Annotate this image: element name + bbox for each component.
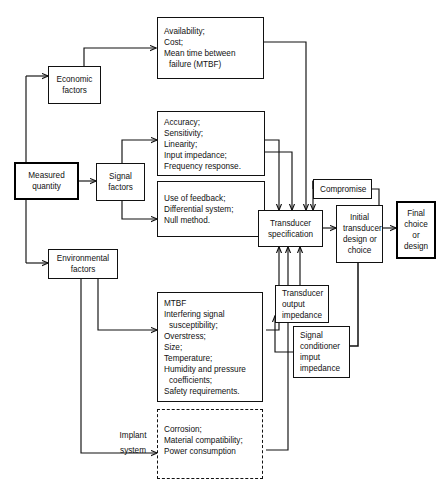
wire-signal-list-a-to-spec [265, 140, 279, 210]
node-label: Transducer [265, 218, 316, 229]
node-label: Transducer [282, 288, 322, 299]
node-initial-transducer-design[interactable]: Initial transducer design or choice [336, 205, 383, 263]
list-line: Temperature; [164, 353, 256, 364]
node-label: impedance [300, 363, 343, 374]
node-compromise[interactable]: Compromise [313, 179, 372, 199]
list-line: Cost; [164, 37, 257, 48]
node-final-choice-or-design[interactable]: Final choice or design [396, 201, 436, 259]
list-line: Interfering signal [164, 309, 256, 320]
node-label: quantity [22, 181, 71, 192]
wire-implant-list-to-spec [266, 247, 288, 450]
list-line: Size; [164, 342, 256, 353]
node-label: Economic [55, 74, 94, 85]
list-line: Use of feedback; [164, 193, 258, 204]
list-line: MTBF [164, 298, 256, 309]
list-line: Accuracy; [164, 116, 258, 127]
node-signal-conditioner-input-impedance[interactable]: Signal conditioner imput impedance [293, 326, 350, 378]
node-economic-criteria-list[interactable]: Availability; Cost; Mean time between fa… [157, 17, 264, 79]
node-label: Signal [300, 330, 343, 341]
node-signal-criteria-list[interactable]: Accuracy; Sensitivity; Linearity; Input … [157, 111, 265, 176]
wire-economic-list-to-spec [264, 42, 306, 210]
list-line: Power consumption [164, 445, 256, 456]
wire-compromise-to-initial [372, 189, 379, 205]
node-label: impedance [282, 310, 322, 321]
wire-environmental-to-env-list [98, 279, 157, 330]
list-line: Availability; [164, 26, 257, 37]
node-measured-quantity[interactable]: Measured quantity [14, 162, 79, 200]
node-label: factors [103, 182, 138, 193]
edge-label-line: system [100, 445, 166, 456]
list-line: Overstress; [164, 331, 256, 342]
list-line: Linearity; [164, 138, 258, 149]
node-label: factors [55, 264, 111, 275]
edge-label-implant-system: Implant system [100, 430, 166, 456]
list-line: Humidity and pressure [164, 364, 256, 375]
node-label: design or [343, 234, 376, 245]
node-signal-factors[interactable]: Signal factors [96, 163, 145, 201]
node-label: Compromise [320, 184, 365, 195]
node-label: choice [343, 245, 376, 256]
node-label: Measured [22, 170, 71, 181]
edge-label-line: Implant [100, 430, 166, 441]
node-label: output [282, 299, 322, 310]
node-label: conditioner [300, 341, 343, 352]
node-label: Environmental [55, 253, 111, 264]
node-environmental-criteria-list[interactable]: MTBF Interfering signal susceptibility; … [157, 292, 263, 402]
node-transducer-output-impedance[interactable]: Transducer output impedance [275, 285, 329, 323]
node-signal-method-list[interactable]: Use of feedback; Differential system; Nu… [157, 181, 265, 237]
wire-environmental-to-implant-list [81, 279, 157, 453]
node-label: Initial [343, 212, 376, 223]
node-environmental-factors[interactable]: Environmental factors [48, 249, 118, 279]
node-economic-factors[interactable]: Economic factors [48, 66, 101, 104]
list-line: coefficients; [164, 375, 256, 386]
list-line: Corrosion; [164, 423, 256, 434]
list-line: Material compatibility; [164, 434, 256, 445]
list-line: failure (MTBF) [164, 59, 257, 70]
node-label: specification [265, 229, 316, 240]
list-line: Safety requirements. [164, 386, 256, 397]
node-implant-criteria-list[interactable]: Corrosion; Material compatibility; Power… [157, 409, 263, 479]
node-label: factors [55, 85, 94, 96]
list-line: Sensitivity; [164, 127, 258, 138]
list-line: Differential system; [164, 204, 258, 215]
list-line: Frequency response. [164, 160, 258, 171]
list-line: Null method. [164, 215, 258, 226]
list-line: susceptibility; [164, 320, 256, 331]
flow-diagram: Measured quantity Economic factors Signa… [0, 0, 448, 489]
node-label: or [404, 230, 428, 241]
node-label: imput [300, 352, 343, 363]
node-label: design [404, 241, 428, 252]
wire-economic-to-list [84, 48, 156, 66]
node-label: Signal [103, 171, 138, 182]
node-label: Final [404, 208, 428, 219]
list-line: Mean time between [164, 48, 257, 59]
list-line: Input impedance; [164, 149, 258, 160]
node-transducer-specification[interactable]: Transducer specification [258, 210, 323, 247]
node-label: choice [404, 219, 428, 230]
node-label: transducer [343, 223, 376, 234]
